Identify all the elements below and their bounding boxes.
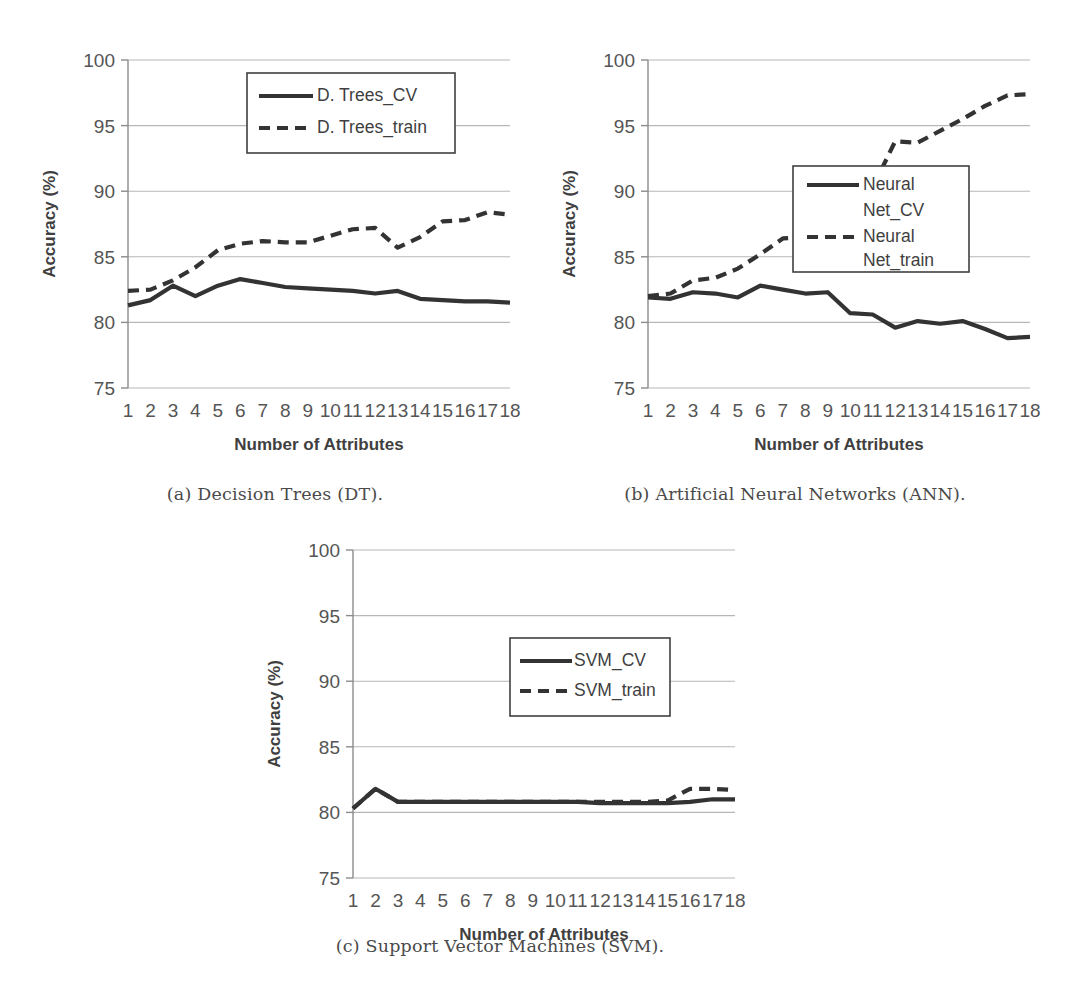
x-tick-label: 13 [612, 890, 633, 911]
y-axis-title: Accuracy (%) [265, 660, 284, 768]
y-tick-label: 90 [319, 671, 340, 692]
x-axis-title: Number of Attributes [234, 435, 403, 454]
chart-panel-dt: 1009590858075Accuracy (%)123456789101112… [25, 18, 525, 518]
legend-label: Net_train [863, 250, 934, 271]
y-tick-label: 95 [94, 116, 115, 137]
legend-label: SVM_CV [574, 650, 646, 671]
y-tick-label: 80 [614, 312, 635, 333]
x-tick-label: 2 [145, 400, 156, 421]
y-tick-label: 85 [94, 247, 115, 268]
x-tick-label: 8 [505, 890, 516, 911]
chart-panel-svm: 1009590858075Accuracy (%)123456789101112… [250, 508, 750, 998]
legend-label: SVM_train [574, 680, 656, 701]
x-tick-label: 18 [499, 400, 520, 421]
series-line-dashed [353, 789, 735, 809]
x-tick-label: 1 [348, 890, 359, 911]
x-tick-label: 11 [863, 400, 883, 421]
x-tick-label: 9 [822, 400, 833, 421]
y-tick-label: 75 [614, 378, 635, 399]
x-tick-label: 3 [393, 890, 404, 911]
x-tick-label: 13 [907, 400, 928, 421]
x-tick-label: 5 [438, 890, 449, 911]
x-tick-label: 12 [365, 400, 386, 421]
figure-page: { "page": { "kind": "multi-panel-figure"… [0, 0, 1090, 998]
y-tick-label: 100 [603, 50, 635, 71]
legend-label: D. Trees_CV [317, 85, 417, 106]
legend-label: D. Trees_train [317, 117, 427, 138]
y-tick-label: 95 [319, 606, 340, 627]
x-tick-label: 7 [778, 400, 789, 421]
x-tick-label: 16 [454, 400, 475, 421]
x-tick-label: 9 [527, 890, 538, 911]
x-tick-label: 10 [840, 400, 861, 421]
x-tick-label: 4 [415, 890, 426, 911]
x-tick-label: 6 [755, 400, 766, 421]
legend-label: Neural [863, 174, 915, 194]
y-tick-label: 95 [614, 116, 635, 137]
x-tick-label: 4 [710, 400, 721, 421]
x-tick-label: 11 [343, 400, 363, 421]
x-tick-label: 5 [213, 400, 224, 421]
x-tick-label: 10 [320, 400, 341, 421]
chart-svg-dt: 1009590858075Accuracy (%)123456789101112… [25, 18, 525, 488]
x-tick-label: 2 [665, 400, 676, 421]
x-tick-label: 18 [724, 890, 745, 911]
y-tick-label: 100 [308, 540, 340, 561]
x-tick-label: 17 [702, 890, 723, 911]
series-line-solid [353, 789, 735, 809]
x-tick-label: 17 [477, 400, 498, 421]
caption-ann: (b) Artificial Neural Networks (ANN). [545, 484, 1045, 504]
x-tick-label: 8 [280, 400, 291, 421]
x-tick-label: 12 [590, 890, 611, 911]
x-tick-label: 6 [460, 890, 471, 911]
caption-dt: (a) Decision Trees (DT). [25, 484, 525, 504]
y-tick-label: 100 [83, 50, 115, 71]
legend-label: Net_CV [863, 200, 925, 221]
series-line-solid [648, 286, 1030, 338]
x-tick-label: 9 [302, 400, 313, 421]
y-tick-label: 75 [319, 868, 340, 889]
x-tick-label: 7 [258, 400, 269, 421]
series-line-solid [128, 279, 510, 305]
chart-svg-ann: 1009590858075Accuracy (%)123456789101112… [545, 18, 1045, 488]
x-tick-label: 17 [997, 400, 1018, 421]
x-tick-label: 12 [885, 400, 906, 421]
y-axis-title: Accuracy (%) [560, 170, 579, 278]
x-tick-label: 14 [930, 400, 952, 421]
x-tick-label: 3 [168, 400, 179, 421]
y-tick-label: 85 [319, 737, 340, 758]
x-tick-label: 10 [545, 890, 566, 911]
chart-svg-svm: 1009590858075Accuracy (%)123456789101112… [250, 508, 750, 978]
x-tick-label: 2 [370, 890, 381, 911]
y-axis-title: Accuracy (%) [40, 170, 59, 278]
x-tick-label: 5 [733, 400, 744, 421]
series-line-dashed [128, 212, 510, 291]
x-tick-label: 11 [568, 890, 588, 911]
y-tick-label: 90 [94, 181, 115, 202]
x-tick-label: 15 [432, 400, 453, 421]
chart-panel-ann: 1009590858075Accuracy (%)123456789101112… [545, 18, 1045, 518]
x-tick-label: 1 [123, 400, 134, 421]
x-tick-label: 14 [635, 890, 657, 911]
y-tick-label: 80 [319, 802, 340, 823]
x-tick-label: 16 [679, 890, 700, 911]
x-tick-label: 14 [410, 400, 432, 421]
x-tick-label: 13 [387, 400, 408, 421]
x-tick-label: 15 [952, 400, 973, 421]
y-tick-label: 80 [94, 312, 115, 333]
x-tick-label: 8 [800, 400, 811, 421]
x-tick-label: 18 [1019, 400, 1040, 421]
x-tick-label: 1 [643, 400, 654, 421]
x-tick-label: 15 [657, 890, 678, 911]
caption-svm: (c) Support Vector Machines (SVM). [250, 936, 750, 956]
x-tick-label: 16 [974, 400, 995, 421]
x-tick-label: 3 [688, 400, 699, 421]
y-tick-label: 85 [614, 247, 635, 268]
legend-label: Neural [863, 226, 915, 246]
x-tick-label: 4 [190, 400, 201, 421]
y-tick-label: 90 [614, 181, 635, 202]
x-tick-label: 6 [235, 400, 246, 421]
y-tick-label: 75 [94, 378, 115, 399]
x-tick-label: 7 [483, 890, 494, 911]
x-axis-title: Number of Attributes [754, 435, 923, 454]
